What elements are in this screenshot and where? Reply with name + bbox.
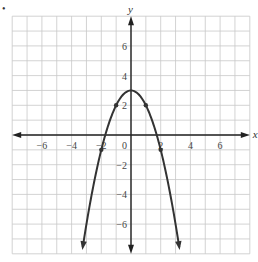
y-axis-label: y <box>127 3 133 15</box>
graph: • xy −6−4−2246−6−4−22460 <box>0 0 258 262</box>
curve-left-arrow-icon <box>81 241 87 250</box>
x-tick-label: 6 <box>218 140 223 151</box>
x-axis-label: x <box>252 128 258 140</box>
y-tick-label: −2 <box>116 160 127 171</box>
y-axis-down-arrow-icon <box>128 245 134 254</box>
y-tick-label: −4 <box>116 189 127 200</box>
data-point <box>144 103 148 107</box>
x-axis-left-arrow-icon <box>12 132 21 138</box>
y-tick-label: −6 <box>116 219 127 230</box>
x-tick-label: 4 <box>188 140 193 151</box>
problem-marker: • <box>2 3 6 14</box>
y-tick-label: 4 <box>122 71 127 82</box>
x-axis-right-arrow-icon <box>241 132 250 138</box>
x-tick-label: −6 <box>37 140 48 151</box>
y-axis-up-arrow-icon <box>128 16 134 25</box>
origin-label: 0 <box>122 140 127 151</box>
y-tick-label: 2 <box>122 100 127 111</box>
curve-right-arrow-icon <box>175 241 181 250</box>
y-tick-label: 6 <box>122 41 127 52</box>
data-point <box>99 148 103 152</box>
x-tick-label: −4 <box>66 140 77 151</box>
data-point <box>159 148 163 152</box>
axes: xy <box>12 3 258 254</box>
data-point <box>114 103 118 107</box>
